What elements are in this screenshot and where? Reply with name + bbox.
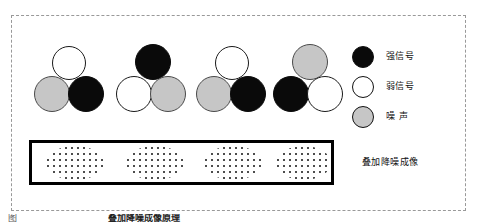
- cluster-1-bottom-left-noise-circle: [34, 76, 70, 112]
- figure-root: 强信号 弱信号 噪 声 叠加降噪成像 图 叠加降噪成像原理: [0, 0, 479, 222]
- cluster-3-bottom-right-strong-signal-circle: [230, 76, 266, 112]
- stippled-blob-2: [126, 146, 184, 180]
- cluster-4-top-noise-circle: [292, 44, 328, 80]
- noise-swatch-icon: [352, 106, 374, 128]
- legend-item-weak-signal: 弱信号: [352, 74, 462, 104]
- caption-left-fragment: 图: [8, 214, 17, 222]
- legend-label-noise: 噪 声: [386, 109, 408, 122]
- legend-label-strong-signal: 强信号: [386, 49, 414, 62]
- cluster-2-bottom-left-weak-signal-circle: [116, 76, 152, 112]
- legend-item-strong-signal: 强信号: [352, 44, 462, 74]
- stippled-blob-3: [204, 146, 262, 180]
- cluster-1-bottom-right-strong-signal-circle: [68, 76, 104, 112]
- cluster-3-bottom-left-noise-circle: [196, 76, 232, 112]
- legend-label-superimposed-imaging: 叠加降噪成像: [362, 155, 418, 168]
- legend-item-noise: 噪 声: [352, 104, 462, 134]
- stippled-blob-1: [46, 146, 104, 180]
- superimposed-result-box: [29, 140, 334, 185]
- cluster-4-bottom-right-weak-signal-circle: [307, 76, 343, 112]
- cluster-4-bottom-left-strong-signal-circle: [273, 76, 309, 112]
- cluster-2-bottom-right-noise-circle: [150, 76, 186, 112]
- caption-right-fragment: 叠加降噪成像原理: [108, 214, 180, 222]
- stippled-blob-4: [276, 146, 331, 180]
- cluster-2-top-strong-signal-circle: [135, 44, 171, 80]
- legend-label-weak-signal: 弱信号: [386, 79, 414, 92]
- cluster-1-top-weak-signal-circle: [52, 46, 86, 80]
- weak-signal-swatch-icon: [352, 76, 374, 98]
- cluster-3-top-weak-signal-circle: [215, 46, 249, 80]
- legend: 强信号 弱信号 噪 声: [352, 44, 462, 134]
- clipped-figure-caption: 图 叠加降噪成像原理: [0, 214, 479, 222]
- strong-signal-swatch-icon: [352, 46, 374, 68]
